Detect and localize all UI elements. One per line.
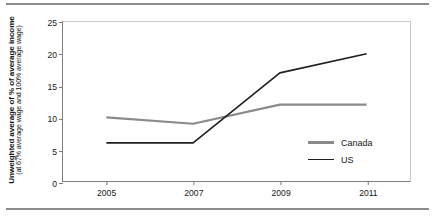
x-tick-mark: [281, 181, 282, 185]
y-tick-label: 15: [47, 82, 57, 92]
y-tick-label: 10: [47, 114, 57, 124]
y-tick-25: 25: [47, 13, 63, 31]
x-tick-label: 2011: [359, 188, 377, 198]
x-tick-2005: 2005: [97, 181, 116, 198]
x-tick-2009: 2009: [272, 181, 291, 198]
x-tick-label: 2005: [97, 188, 116, 198]
x-tick-mark: [193, 181, 194, 185]
x-tick-2007: 2007: [184, 181, 203, 198]
y-tick-10: 10: [47, 110, 63, 128]
y-tick-label: 20: [47, 50, 57, 60]
legend-item-canada[interactable]: Canada: [308, 134, 408, 151]
chart-legend: CanadaUS: [308, 134, 408, 168]
y-tick-label: 5: [52, 147, 57, 157]
legend-line-icon: [308, 159, 334, 161]
y-tick-label: 0: [52, 179, 57, 189]
y-tick-mark: [59, 119, 63, 120]
figure-bottom-rule: [6, 208, 429, 210]
y-axis-title: Unweighted average of % of average incom…: [0, 14, 30, 186]
x-tick-2011: 2011: [359, 181, 377, 198]
x-tick-label: 2007: [184, 188, 203, 198]
legend-item-us[interactable]: US: [308, 151, 408, 168]
figure-top-rule: [6, 3, 429, 5]
y-tick-5: 5: [52, 142, 63, 160]
x-tick-mark: [106, 181, 107, 185]
y-tick-label: 25: [47, 18, 57, 28]
y-tick-15: 15: [47, 77, 63, 95]
plot-area: 0510152025 2005200720092011 CanadaUS: [62, 21, 411, 182]
line-series-us: [106, 54, 366, 143]
y-tick-mark: [59, 22, 63, 23]
y-tick-mark: [59, 151, 63, 152]
y-tick-mark: [59, 183, 63, 184]
x-tick-mark: [368, 181, 369, 185]
legend-line-icon: [308, 141, 334, 143]
legend-item-label: US: [341, 155, 354, 165]
y-tick-mark: [59, 54, 63, 55]
y-tick-20: 20: [47, 45, 63, 63]
y-axis-title-sub: (at 67% average wage and 100% average wa…: [16, 14, 24, 186]
legend-item-label: Canada: [341, 138, 373, 148]
y-tick-0: 0: [52, 174, 63, 192]
x-tick-label: 2009: [272, 188, 291, 198]
figure-container: Unweighted average of % of average incom…: [0, 0, 435, 217]
y-tick-mark: [59, 87, 63, 88]
